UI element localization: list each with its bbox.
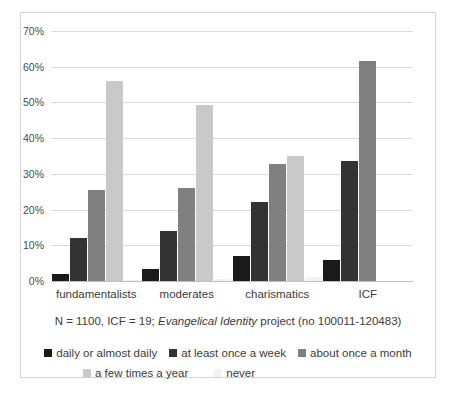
legend-swatch-icon [169,349,177,357]
bars-layer [51,31,413,281]
y-axis-tick-label: 70% [23,26,44,37]
legend-label: about once a month [310,347,412,359]
bar [70,238,87,281]
bar [196,105,213,281]
bar [323,260,340,281]
category-label: moderates [160,288,214,300]
bar [359,61,376,281]
chart-caption: N = 1100, ICF = 19; Evangelical Identity… [21,315,435,327]
legend-item[interactable]: never [214,367,255,379]
bar [251,202,268,281]
legend-label: daily or almost daily [56,347,157,359]
legend-label: at least once a week [181,347,286,359]
legend-item[interactable]: about once a month [298,347,412,359]
legend-item[interactable]: at least once a week [169,347,286,359]
y-axis-tick-label: 50% [23,97,44,108]
plot-area: 0%10%20%30%40%50%60%70% fundamentalistsm… [51,31,413,281]
y-axis-tick-label: 20% [23,204,44,215]
legend-row-1: daily or almost dailyat least once a wee… [21,343,435,363]
legend-swatch-icon [83,369,91,377]
y-axis-tick-label: 30% [23,169,44,180]
legend-item[interactable]: daily or almost daily [44,347,157,359]
caption-prefix: N = 1100, ICF = 19; [55,315,158,327]
y-axis-tick-label: 40% [23,133,44,144]
y-axis-tick-label: 0% [29,276,44,287]
bar [287,156,304,281]
legend-swatch-icon [214,369,222,377]
bar [178,188,195,281]
bar [305,277,322,281]
bar-group [142,31,231,281]
y-axis-tick-label: 10% [23,240,44,251]
legend-label: a few times a year [95,367,188,379]
caption-italic-title: Evangelical Identity [158,315,257,327]
category-label: charismatics [245,288,309,300]
bar-group [52,31,141,281]
legend-item[interactable]: a few times a year [83,367,188,379]
bar [88,190,105,281]
category-label: ICF [358,288,377,300]
bar [233,256,250,281]
y-axis-tick-label: 60% [23,61,44,72]
caption-suffix: project (no 100011-120483) [257,315,401,327]
bar-group [233,31,322,281]
chart-legend: daily or almost dailyat least once a wee… [21,343,435,383]
category-label: fundamentalists [56,288,137,300]
legend-label: never [226,367,255,379]
bar [124,280,141,281]
legend-swatch-icon [298,349,306,357]
bar [52,274,69,281]
bar [269,164,286,281]
legend-swatch-icon [44,349,52,357]
bar [160,231,177,281]
bar [214,279,231,281]
bar-group [323,31,412,281]
chart-frame: 0%10%20%30%40%50%60%70% fundamentalistsm… [20,12,436,378]
gridline-0%: 0% [51,281,413,282]
legend-row-2: a few times a yearnever [21,363,435,383]
bar [106,81,123,281]
bar [142,269,159,282]
bar [341,161,358,281]
